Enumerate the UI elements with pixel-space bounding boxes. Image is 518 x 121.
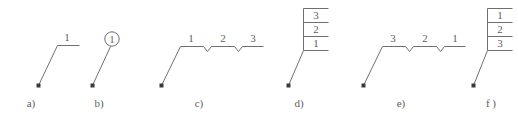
panel-d-node-dot <box>287 84 291 88</box>
panel-a-caption: a) <box>27 97 36 110</box>
panel-e-caption: e) <box>397 97 406 110</box>
figure-row: 1 a) 1 b) 1 2 3 c) 3 2 1 d) 3 2 1 e) <box>0 0 518 121</box>
panel-f: 1 2 3 f ) <box>472 9 513 111</box>
panel-e-label-2: 2 <box>422 32 428 44</box>
panel-e: 3 2 1 e) <box>362 32 466 110</box>
panel-e-label-3: 1 <box>452 32 458 44</box>
panel-a: 1 a) <box>27 31 80 110</box>
panel-a-node-dot <box>37 84 41 88</box>
panel-f-label-bottom: 3 <box>497 37 503 49</box>
panel-c-node-dot <box>160 84 164 88</box>
panel-f-caption: f ) <box>486 97 496 110</box>
panel-d: 3 2 1 d) <box>287 9 329 111</box>
panel-d-label-middle: 2 <box>313 23 319 35</box>
panel-b-node-dot <box>91 84 95 88</box>
panel-f-label-top: 1 <box>497 9 503 21</box>
panel-c-label-2: 2 <box>220 32 226 44</box>
panel-e-label-1: 3 <box>390 32 396 44</box>
panel-d-caption: d) <box>294 97 304 110</box>
panel-b-caption: b) <box>94 97 104 110</box>
panel-d-label-bottom: 1 <box>313 37 319 49</box>
panel-a-label-1: 1 <box>64 31 70 43</box>
panel-c-label-3: 3 <box>250 32 256 44</box>
panel-b-line <box>93 47 111 86</box>
panel-f-node-dot <box>472 84 476 88</box>
panel-f-line <box>474 51 488 86</box>
panel-e-node-dot <box>362 84 366 88</box>
panel-c-caption: c) <box>195 97 204 110</box>
panel-c-polyline <box>162 47 264 86</box>
panel-c-label-1: 1 <box>188 32 194 44</box>
panel-c: 1 2 3 c) <box>160 32 264 110</box>
diagram-canvas: 1 a) 1 b) 1 2 3 c) 3 2 1 d) 3 2 1 e) <box>0 0 518 121</box>
panel-d-label-top: 3 <box>313 9 319 21</box>
panel-f-label-middle: 2 <box>497 23 503 35</box>
panel-b-label-1: 1 <box>110 34 115 45</box>
panel-a-polyline <box>39 46 80 86</box>
panel-b: 1 b) <box>91 32 120 110</box>
panel-e-polyline <box>364 47 466 86</box>
panel-d-line <box>289 51 304 86</box>
